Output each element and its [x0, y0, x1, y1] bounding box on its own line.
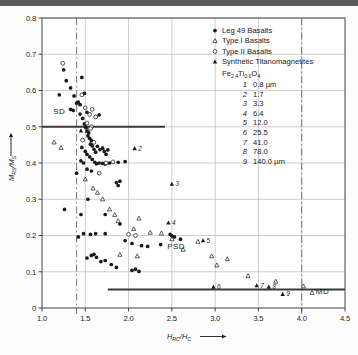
data-point-filled-circle — [57, 93, 61, 97]
data-point-filled-circle — [179, 237, 183, 241]
legend-size-value: 3.3 — [253, 99, 264, 108]
data-point-filled-circle — [69, 86, 73, 90]
y-axis-title-text: MRS/MS — [7, 155, 17, 181]
data-point-filled-circle — [94, 232, 98, 236]
x-axis-tick-labels: 1.01.52.02.53.03.54.04.5 — [37, 314, 350, 323]
data-point-open-circle — [61, 61, 65, 65]
data-point-filled-circle — [115, 266, 119, 270]
y-axis-arrow-head — [9, 133, 13, 137]
data-point-label: 5 — [207, 237, 211, 244]
data-point-filled-circle — [78, 103, 82, 107]
region-label-sd: SD — [53, 107, 65, 116]
data-point-label: 3 — [175, 180, 179, 187]
data-point-filled-circle — [95, 255, 99, 259]
data-point-filled-circle — [140, 244, 144, 248]
data-point-filled-circle — [134, 267, 138, 271]
data-point-filled-circle — [85, 167, 89, 171]
legend-entry-label: Leg 49 Basalts — [222, 26, 272, 35]
x-tick-label: 2.0 — [124, 314, 134, 323]
data-point-open-circle — [89, 127, 93, 131]
data-point-open-circle — [213, 50, 217, 54]
data-point-filled-circle — [89, 169, 93, 173]
data-point-filled-circle — [63, 208, 67, 212]
data-point-filled-circle — [78, 112, 82, 116]
y-axis-title: MRS/MS — [7, 133, 17, 181]
data-point-open-circle — [80, 93, 84, 97]
data-point-open-circle — [134, 234, 138, 238]
data-point-filled-circle — [97, 113, 101, 117]
data-point-filled-circle — [62, 68, 66, 72]
data-point-filled-circle — [94, 150, 98, 154]
data-point-filled-circle — [86, 197, 90, 201]
legend-entry-label: Type I Basalts — [222, 36, 270, 45]
data-point-filled-circle — [80, 146, 84, 150]
data-point-filled-circle — [146, 245, 150, 249]
data-point-label: 7 — [260, 282, 264, 289]
legend-entry-label: Type II Basalts — [222, 47, 272, 56]
region-label-psd: PSD — [167, 242, 185, 251]
data-point-open-circle — [83, 106, 87, 110]
data-point-open-circle — [90, 107, 94, 111]
data-point-filled-circle — [79, 213, 83, 217]
legend-size-value: 25.5 — [253, 128, 268, 137]
legend-size-value: 1.7 — [253, 90, 264, 99]
data-point-filled-circle — [90, 158, 94, 162]
x-axis-arrow-head — [222, 335, 226, 339]
legend-size-id: 2 — [242, 90, 248, 99]
legend-size-value: 41.0 — [253, 138, 268, 147]
y-tick-label: 0.6 — [26, 86, 36, 95]
data-point-filled-circle — [103, 213, 107, 217]
data-point-filled-circle — [75, 171, 79, 175]
legend-size-value: 140.0 µm — [253, 157, 285, 166]
data-point-filled-circle — [103, 232, 107, 236]
x-tick-label: 3.5 — [253, 314, 263, 323]
data-point-label: 2 — [137, 145, 142, 152]
data-point-filled-circle — [116, 184, 120, 188]
data-point-filled-circle — [82, 232, 86, 236]
data-point-label: 4 — [172, 219, 176, 226]
x-axis-title: HRC/HC — [167, 332, 226, 342]
y-tick-label: 0.2 — [26, 231, 36, 240]
data-point-open-circle — [81, 138, 85, 142]
x-tick-label: 3.0 — [210, 314, 220, 323]
data-point-open-circle — [127, 233, 131, 237]
x-axis-title-text: HRC/HC — [167, 332, 191, 342]
y-tick-label: 0.4 — [26, 159, 36, 168]
data-point-filled-circle — [104, 152, 108, 156]
data-point-open-circle — [92, 140, 96, 144]
data-point-open-circle — [88, 113, 92, 117]
data-point-filled-circle — [213, 29, 217, 33]
legend-size-value: 6.4 — [253, 109, 264, 118]
data-point-filled-circle — [137, 270, 141, 274]
scatter-chart: 1.01.52.02.53.03.54.04.500.10.20.30.40.5… — [0, 6, 358, 355]
data-point-filled-circle — [101, 146, 105, 150]
y-axis-tick-labels: 00.10.20.30.40.50.60.70.8 — [26, 14, 36, 313]
data-point-filled-circle — [130, 268, 134, 272]
x-tick-label: 4.5 — [340, 314, 350, 323]
data-point-filled-circle — [82, 161, 86, 165]
data-point-filled-circle — [80, 76, 84, 80]
data-point-label: 9 — [286, 290, 290, 297]
data-point-label: 8 — [272, 283, 276, 290]
data-point-filled-circle — [159, 243, 163, 247]
data-point-open-circle — [111, 160, 115, 164]
data-point-filled-circle — [85, 256, 89, 260]
data-point-filled-circle — [103, 259, 107, 263]
data-point-open-circle — [97, 171, 101, 175]
data-point-filled-circle — [116, 160, 120, 164]
data-point-filled-circle — [77, 235, 81, 239]
legend-size-value: 12.0 — [253, 118, 268, 127]
x-tick-label: 1.0 — [37, 314, 47, 323]
data-point-filled-circle — [72, 94, 76, 98]
legend-entry-label: Synthetic Titanomagnetites — [222, 57, 313, 66]
data-point-filled-circle — [97, 161, 101, 165]
y-tick-label: 0.3 — [26, 195, 36, 204]
data-point-filled-circle — [71, 109, 75, 113]
data-point-filled-circle — [109, 263, 113, 267]
data-point-filled-circle — [106, 148, 110, 152]
data-point-filled-circle — [81, 117, 85, 121]
data-point-filled-circle — [92, 253, 96, 257]
data-point-filled-circle — [123, 160, 127, 164]
y-tick-label: 0.1 — [26, 268, 36, 277]
legend-formula: Fe2.4Ti0.6O4 — [222, 69, 260, 79]
